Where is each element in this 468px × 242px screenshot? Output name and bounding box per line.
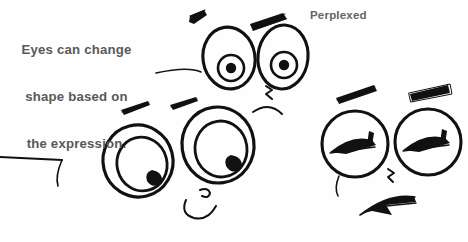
instruction-line-3: the expression. — [4, 136, 149, 152]
sketch-page: .ink{fill:none;stroke:#111;stroke-lineca… — [0, 0, 468, 242]
pupil-right-top-center — [279, 60, 289, 70]
instruction-line-1: Eyes can change — [4, 42, 149, 58]
expression-label: Perplexed — [310, 9, 367, 23]
pupil-left-top-center — [226, 63, 236, 73]
instruction-caption: Eyes can change shape based on the expre… — [4, 11, 149, 182]
instruction-line-2: shape based on — [4, 89, 149, 105]
